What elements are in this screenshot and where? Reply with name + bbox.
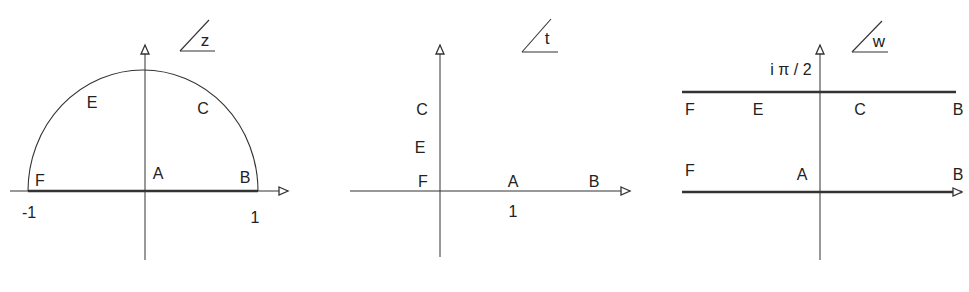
w-point-label: E	[753, 102, 764, 118]
t-plane-panel	[350, 19, 630, 257]
conformal-mapping-diagram: z F E A C B -1 1 t C E F A B 1 w i π / 2…	[0, 0, 969, 292]
t-tick-label: 1	[509, 204, 518, 220]
w-plane-label: w	[873, 33, 885, 50]
z-point-label: E	[87, 95, 98, 111]
t-point-label: F	[418, 174, 428, 190]
t-point-label: B	[589, 174, 600, 190]
t-plane-label: t	[545, 30, 550, 47]
t-point-label: E	[415, 140, 426, 156]
t-point-label: A	[508, 174, 519, 190]
w-point-label: A	[797, 167, 808, 183]
z-plane-label: z	[201, 32, 210, 49]
z-point-label: A	[153, 166, 164, 182]
diagram-canvas	[0, 0, 969, 292]
z-plane-label-corner-icon	[180, 20, 215, 51]
t-plane-label-corner-icon	[522, 19, 558, 52]
z-point-label: B	[240, 170, 251, 186]
w-point-label: F	[685, 163, 695, 179]
t-point-label: C	[416, 102, 428, 118]
w-tick-label: i π / 2	[770, 62, 811, 78]
z-point-label: C	[197, 101, 209, 117]
w-plane-panel	[682, 21, 962, 260]
z-tick-label: -1	[22, 205, 36, 221]
z-semicircle-arc	[28, 70, 258, 191]
z-tick-label: 1	[251, 210, 260, 226]
w-point-label: F	[685, 102, 695, 118]
w-point-label: B	[953, 102, 964, 118]
z-plane-panel	[10, 20, 288, 260]
z-point-label: F	[35, 173, 45, 189]
w-point-label: B	[953, 167, 964, 183]
w-point-label: C	[854, 102, 866, 118]
